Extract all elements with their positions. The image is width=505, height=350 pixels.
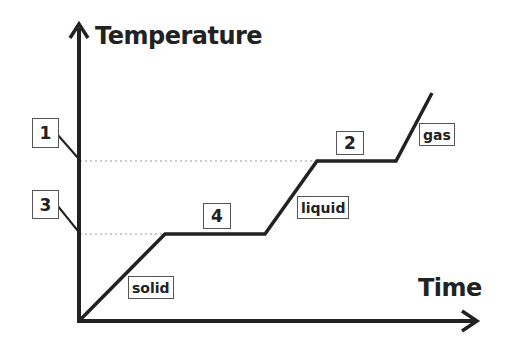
label-box-3: 3 (32, 190, 59, 219)
label-3-leader (57, 205, 78, 231)
phase-label-gas: gas (419, 123, 455, 146)
y-axis-title: Temperature (95, 22, 262, 50)
label-box-1: 1 (32, 118, 59, 148)
label-1-leader (57, 134, 78, 158)
phase-label-liquid: liquid (297, 196, 349, 219)
phase-label-solid: solid (128, 276, 174, 299)
label-box-4: 4 (203, 203, 231, 229)
x-axis-title: Time (418, 274, 482, 302)
label-box-2: 2 (336, 131, 364, 155)
